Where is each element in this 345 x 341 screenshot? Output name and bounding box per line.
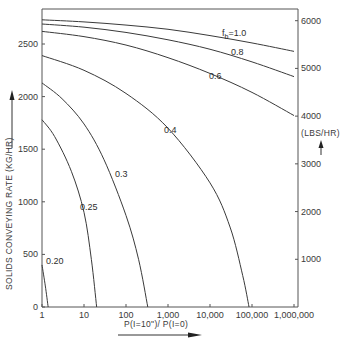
curve-label: 0.20	[46, 256, 64, 266]
y-right-arrow-icon	[319, 140, 324, 155]
y-right-tick-label: 4000	[301, 111, 321, 121]
x-tick-label: 10,000	[196, 310, 224, 320]
y-right-axis-ticks: 100020003000400050006000	[295, 16, 321, 265]
y-axis-ticks: 05001000150020002500	[18, 39, 45, 312]
x-tick-label: 10	[79, 310, 89, 320]
curves	[42, 20, 294, 307]
y-right-tick-label: 3000	[301, 159, 321, 169]
curve-0-3	[42, 83, 148, 307]
y-axis-label: SOLIDS CONVEYING RATE (KG/HR)	[4, 137, 14, 290]
y-right-tick-label: 1000	[301, 254, 321, 264]
y-right-axis-label: (LBS/HR)	[301, 128, 340, 138]
x-axis-label: P(I=10")/ P(I=0)	[124, 319, 188, 329]
y-right-tick-label: 2000	[301, 207, 321, 217]
y-tick-label: 1500	[18, 144, 38, 154]
y-right-tick-label: 5000	[301, 63, 321, 73]
curve-label: 0.4	[164, 125, 177, 135]
y-tick-label: 0	[33, 302, 38, 312]
x-tick-label: 1	[39, 310, 44, 320]
curve-labels: fb=1.00.80.60.40.30.250.20	[46, 28, 246, 266]
x-axis-ticks: 1101001,00010,000100,0001,000,000	[39, 304, 314, 320]
curve-label: 0.3	[115, 169, 128, 179]
y-tick-label: 500	[23, 249, 38, 259]
y-right-tick-label: 6000	[301, 16, 321, 26]
curve-0-4	[42, 56, 249, 307]
axis-lines	[42, 9, 298, 307]
curve-label: 0.8	[231, 47, 244, 57]
curve-label: fb=1.0	[222, 28, 246, 40]
y-tick-label: 2500	[18, 39, 38, 49]
curve-label: 0.25	[80, 202, 98, 212]
y-tick-label: 1000	[18, 197, 38, 207]
x-axis-arrow-icon	[118, 333, 202, 338]
y-tick-label: 2000	[18, 92, 38, 102]
plot-frame	[42, 9, 298, 307]
curve-label: 0.6	[209, 71, 222, 81]
chart: 1101001,00010,000100,0001,000,000 050010…	[0, 0, 345, 341]
x-tick-label: 100,000	[236, 310, 269, 320]
curve-0-20	[42, 265, 48, 307]
curve-0-25	[42, 120, 97, 307]
x-tick-label: 1,000,000	[274, 310, 314, 320]
